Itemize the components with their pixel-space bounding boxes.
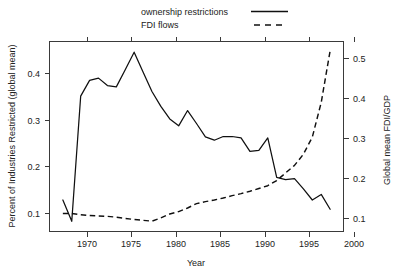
x-tick-label-1970: 1970 [77,239,97,249]
y-axis-right-ticks [344,59,349,218]
x-tick-label-2000: 2000 [344,239,364,249]
x-tick-label-1980: 1980 [166,239,186,249]
x-tick-label-1995: 1995 [299,239,319,249]
legend-label-ownership-restrictions: ownership restrictions [141,7,229,17]
y2-tick-label-0.2: 0.2 [353,174,366,184]
y-axis-right-title: Global mean FDI/GDP [382,95,392,185]
x-tick-label-1985: 1985 [210,239,230,249]
line-chart: 1970 1975 1980 1985 1990 1995 2000 Year … [0,0,401,278]
y-tick-label-0.3: 0.3 [27,116,40,126]
y2-tick-label-0.3: 0.3 [353,134,366,144]
y-axis-left-ticks [45,74,50,213]
y2-tick-label-0.4: 0.4 [353,94,366,104]
y-tick-label-0.1: 0.1 [27,209,40,219]
series-line-ownership-restrictions [63,52,330,221]
x-tick-label-1990: 1990 [255,239,275,249]
legend-label-fdi-flows: FDI flows [141,20,179,30]
y2-tick-label-0.5: 0.5 [353,54,366,64]
series-line-fdi-flows [63,51,330,221]
x-tick-label-1975: 1975 [121,239,141,249]
chart-legend: ownership restrictions FDI flows [141,7,288,30]
y-axis-left-title: Percent of Industries Restricted (global… [7,44,17,227]
y2-tick-label-0.1: 0.1 [353,214,366,224]
y-tick-label-0.4: 0.4 [27,69,40,79]
y-tick-label-0.2: 0.2 [27,162,40,172]
x-axis-title: Year [187,258,205,268]
chart-figure: 1970 1975 1980 1985 1990 1995 2000 Year … [0,0,401,278]
